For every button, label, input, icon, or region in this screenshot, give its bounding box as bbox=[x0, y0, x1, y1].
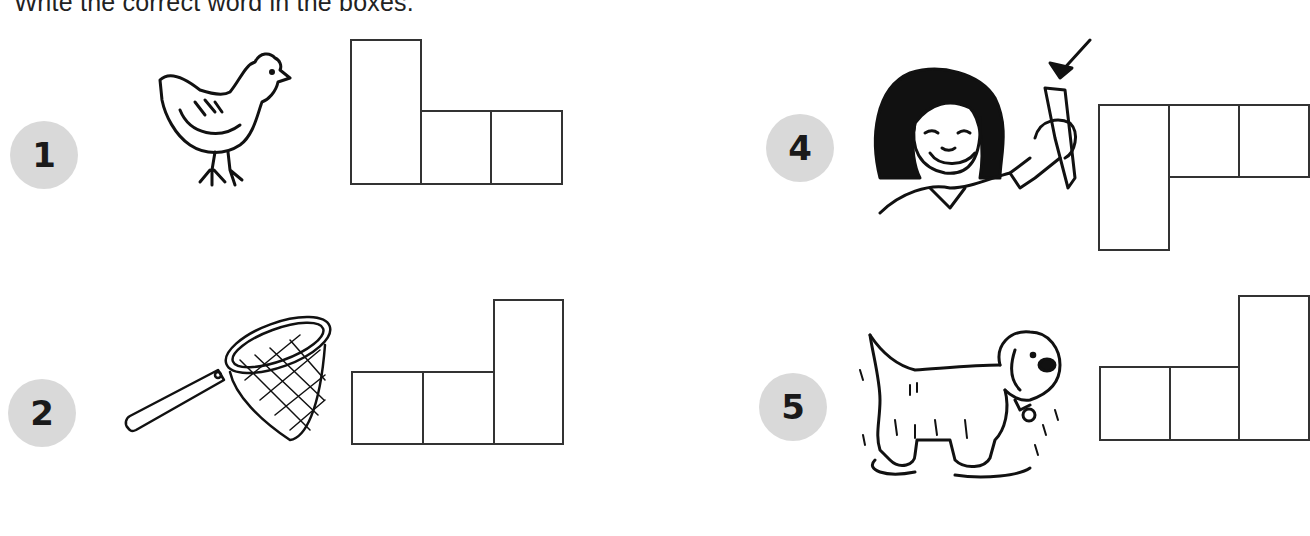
girl-with-pen-icon bbox=[860, 38, 1100, 228]
item-number-badge: 2 bbox=[8, 379, 76, 447]
letter-box[interactable] bbox=[1098, 104, 1170, 251]
item-number-badge: 5 bbox=[759, 373, 827, 441]
letter-box[interactable] bbox=[350, 39, 422, 185]
letter-box[interactable] bbox=[1099, 366, 1171, 441]
letter-box[interactable] bbox=[351, 371, 424, 445]
instruction-text: Write the correct word in the boxes. bbox=[14, 0, 414, 17]
wet-dog-icon bbox=[855, 310, 1070, 490]
letter-box[interactable] bbox=[1238, 104, 1310, 178]
letter-box[interactable] bbox=[422, 371, 495, 445]
net-icon bbox=[120, 300, 335, 450]
item-number-badge: 1 bbox=[10, 121, 78, 189]
letter-box[interactable] bbox=[493, 299, 564, 445]
letter-box[interactable] bbox=[1168, 104, 1240, 178]
letter-box[interactable] bbox=[490, 110, 563, 185]
hen-icon bbox=[150, 40, 300, 190]
letter-box[interactable] bbox=[1238, 295, 1310, 441]
letter-box[interactable] bbox=[1169, 366, 1240, 441]
item-number-badge: 4 bbox=[766, 114, 834, 182]
letter-box[interactable] bbox=[420, 110, 492, 185]
